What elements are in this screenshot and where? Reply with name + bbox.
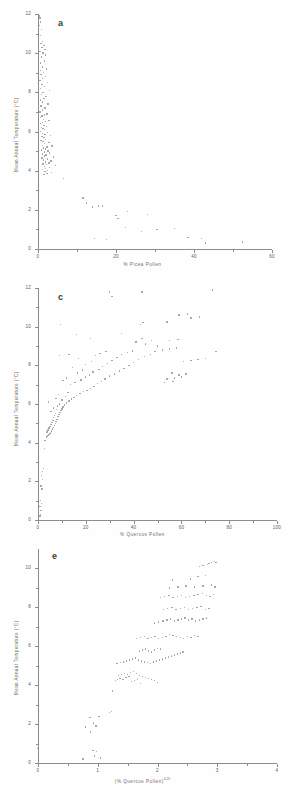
panel-a-y-tick bbox=[35, 132, 38, 133]
data-point bbox=[42, 479, 43, 480]
panel-e-y-tick bbox=[35, 646, 38, 647]
panel-e-x-minor-tick bbox=[68, 764, 69, 766]
panel-a-plot: a Mean Annual Temperature (°C) % Picea P… bbox=[0, 0, 285, 270]
panel-a-x-tick bbox=[194, 250, 195, 253]
panel-e-x-tick-label: 2 bbox=[150, 768, 166, 773]
data-point bbox=[40, 70, 41, 71]
data-point bbox=[46, 126, 47, 127]
data-point bbox=[55, 413, 56, 414]
data-point bbox=[162, 349, 163, 350]
data-point bbox=[202, 618, 203, 619]
data-point bbox=[90, 388, 91, 389]
data-point bbox=[76, 395, 77, 396]
data-point bbox=[40, 485, 41, 486]
data-point bbox=[164, 382, 165, 383]
data-point bbox=[45, 76, 46, 77]
data-point bbox=[136, 673, 137, 674]
data-point bbox=[40, 510, 41, 511]
data-point bbox=[43, 119, 44, 120]
panel-a-x-minor-tick bbox=[77, 250, 78, 252]
panel-e-y-minor-tick bbox=[36, 666, 38, 667]
data-point bbox=[95, 725, 96, 726]
data-point bbox=[41, 94, 42, 95]
data-point bbox=[154, 636, 155, 637]
data-point bbox=[182, 651, 183, 652]
data-point bbox=[145, 343, 146, 344]
data-point bbox=[148, 650, 149, 651]
panel-a-x-tick bbox=[272, 250, 273, 253]
data-point bbox=[166, 619, 167, 620]
data-point bbox=[89, 374, 90, 375]
data-point bbox=[213, 594, 214, 595]
data-point bbox=[178, 314, 179, 315]
data-point bbox=[190, 360, 191, 361]
data-point bbox=[193, 595, 194, 596]
data-point bbox=[190, 578, 191, 579]
data-point bbox=[39, 506, 40, 507]
data-point bbox=[165, 657, 166, 658]
panel-e-y-tick-label: 4 bbox=[17, 682, 31, 687]
data-point bbox=[121, 333, 122, 334]
data-point bbox=[62, 406, 63, 407]
data-point bbox=[119, 678, 120, 679]
data-point bbox=[102, 366, 103, 367]
data-point bbox=[40, 131, 41, 132]
data-point bbox=[101, 381, 102, 382]
data-point bbox=[151, 637, 152, 638]
data-point bbox=[129, 659, 130, 660]
panel-e-plot: e Mean Annual Temperature (°C) (% Quercu… bbox=[0, 535, 285, 799]
data-point bbox=[205, 575, 206, 576]
data-point bbox=[91, 361, 92, 362]
data-point bbox=[180, 652, 181, 653]
data-point bbox=[154, 351, 155, 352]
data-point bbox=[48, 142, 49, 143]
data-point bbox=[85, 376, 86, 377]
data-point bbox=[60, 324, 61, 325]
panel-c-y-tick-label: 0 bbox=[17, 517, 31, 522]
data-point bbox=[171, 372, 172, 373]
data-point bbox=[137, 679, 138, 680]
data-point bbox=[39, 25, 40, 26]
data-point bbox=[58, 394, 59, 395]
data-point bbox=[42, 133, 43, 134]
data-point bbox=[123, 368, 124, 369]
data-point bbox=[42, 122, 43, 123]
panel-a-y-axis-line bbox=[38, 14, 39, 249]
data-point bbox=[174, 620, 175, 621]
data-point bbox=[116, 357, 117, 358]
data-point bbox=[140, 324, 141, 325]
data-point bbox=[150, 354, 151, 355]
data-point bbox=[176, 636, 177, 637]
data-point bbox=[142, 649, 143, 650]
data-point bbox=[147, 638, 148, 639]
panel-a-points bbox=[0, 0, 285, 270]
panel-a-y-tick bbox=[35, 92, 38, 93]
data-point bbox=[171, 655, 172, 656]
data-point bbox=[166, 321, 167, 322]
panel-c-y-minor-tick bbox=[36, 307, 38, 308]
data-point bbox=[45, 96, 46, 97]
data-point bbox=[205, 609, 206, 610]
panel-e-y-axis-line bbox=[38, 549, 39, 763]
data-point bbox=[208, 608, 209, 609]
data-point bbox=[174, 654, 175, 655]
data-point bbox=[199, 316, 200, 317]
data-point bbox=[133, 671, 134, 672]
data-point bbox=[140, 683, 141, 684]
data-point bbox=[160, 648, 161, 649]
data-point bbox=[44, 448, 45, 449]
data-point bbox=[185, 597, 186, 598]
data-point bbox=[212, 289, 213, 290]
panel-e-x-tick-label: 0 bbox=[30, 768, 46, 773]
data-point bbox=[151, 340, 152, 341]
data-point bbox=[42, 66, 43, 67]
panel-c-y-minor-tick bbox=[36, 462, 38, 463]
data-point bbox=[39, 515, 40, 516]
data-point bbox=[159, 659, 160, 660]
data-point bbox=[192, 608, 193, 609]
data-point bbox=[154, 680, 155, 681]
data-point bbox=[181, 618, 182, 619]
data-point bbox=[41, 149, 42, 150]
panel-c-y-tick bbox=[35, 443, 38, 444]
data-point bbox=[40, 99, 41, 100]
